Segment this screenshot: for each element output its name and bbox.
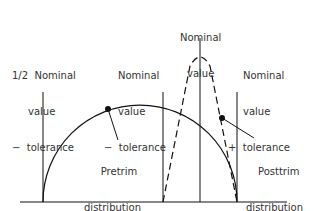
label-line: distribution	[246, 202, 303, 211]
pretrim-label: Pretrim distribution	[84, 142, 141, 211]
label-line: value	[228, 106, 290, 118]
label-line: Nominal	[228, 70, 290, 82]
nominal-label: Nominal value	[180, 8, 221, 92]
label-line: − tolerance	[12, 142, 76, 154]
label-line: Pretrim	[84, 166, 141, 178]
label-line: value	[180, 68, 221, 80]
posttrim-label: Posttrim distribution	[246, 142, 303, 211]
label-line: value	[104, 106, 166, 118]
label-line: Nominal	[180, 32, 221, 44]
label-line: 1/2 Nominal	[12, 70, 76, 82]
lower-half-tolerance-label: 1/2 Nominal value − tolerance	[12, 46, 76, 166]
label-line: Posttrim	[246, 166, 303, 178]
label-line: Nominal	[104, 70, 166, 82]
label-line: distribution	[84, 202, 141, 211]
label-line: value	[12, 106, 76, 118]
